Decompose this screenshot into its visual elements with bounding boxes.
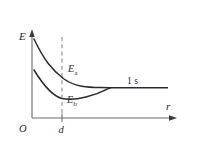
x-axis-label: r bbox=[166, 100, 171, 112]
diagram-canvas: E r O d Ea Eb 1 s bbox=[0, 0, 200, 146]
level-label-1s: 1 s bbox=[127, 76, 138, 86]
molecular-orbital-energy-diagram: E r O d Ea Eb 1 s bbox=[0, 0, 200, 146]
antibonding-curve-label: Ea bbox=[67, 63, 78, 76]
y-axis-arrowhead bbox=[29, 29, 34, 37]
tick-label-d: d bbox=[59, 124, 65, 135]
bonding-curve-label: Eb bbox=[66, 94, 78, 107]
y-axis-label: E bbox=[18, 30, 26, 42]
antibonding-curve-label-symbol: E bbox=[67, 63, 74, 74]
x-axis-arrowhead bbox=[169, 115, 177, 120]
bonding-curve-label-subscript: b bbox=[74, 100, 78, 107]
bonding-curve-label-symbol: E bbox=[66, 94, 73, 105]
origin-label: O bbox=[19, 123, 27, 134]
antibonding-curve-label-subscript: a bbox=[75, 69, 78, 76]
